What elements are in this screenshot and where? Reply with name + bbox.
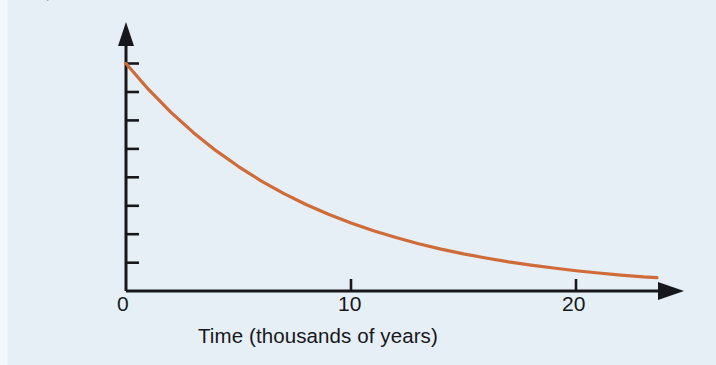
x-tick-label-10: 10	[338, 292, 362, 316]
figure-panel: Number of carbon–14 nuclei which still h…	[0, 0, 716, 365]
x-axis-arrowhead	[658, 282, 684, 300]
x-axis-label: Time (thousands of years)	[198, 324, 438, 348]
x-tick-label-20: 20	[562, 292, 586, 316]
x-tick-label-0: 0	[117, 292, 129, 316]
x-axis-ticks	[351, 279, 576, 291]
y-axis-label: Number of carbon–14 nuclei which still h…	[0, 0, 110, 320]
